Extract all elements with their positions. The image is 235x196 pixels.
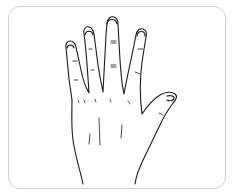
hand-illustration — [0, 0, 235, 196]
nail-ring — [85, 31, 93, 35]
nail-middle — [107, 20, 117, 25]
crease — [159, 113, 163, 115]
nail-little — [67, 45, 74, 48]
nail-thumb — [167, 96, 174, 101]
nail-index — [137, 32, 145, 37]
crease — [89, 49, 94, 70]
palm-mark — [78, 99, 130, 104]
palm-line — [89, 118, 122, 145]
crease — [111, 41, 116, 67]
hand-outline — [66, 17, 177, 184]
crease — [73, 61, 78, 80]
